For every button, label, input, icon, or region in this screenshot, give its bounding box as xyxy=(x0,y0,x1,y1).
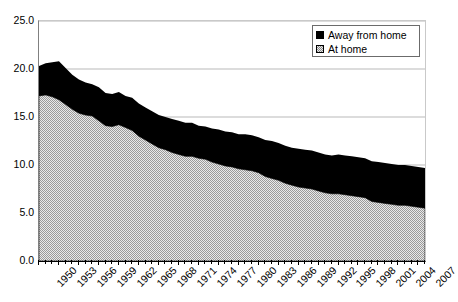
x-tick-label: 1998 xyxy=(373,264,398,289)
y-tick-label: 15.0 xyxy=(0,111,34,121)
legend-item-away-from-home: Away from home xyxy=(316,28,416,42)
x-tick-label: 1977 xyxy=(234,264,259,289)
x-tick-label: 1995 xyxy=(353,264,378,289)
x-tick-label: 1959 xyxy=(114,264,139,289)
black-square-icon xyxy=(316,31,324,39)
y-tick-label: 25.0 xyxy=(0,15,34,25)
y-tick-label: 10.0 xyxy=(0,159,34,169)
y-axis-labels: 25.020.015.010.05.00.0 xyxy=(0,0,34,302)
chart-legend: Away from home At home xyxy=(312,25,420,57)
x-tick-label: 1965 xyxy=(154,264,179,289)
y-tick-label: 5.0 xyxy=(0,207,34,217)
x-tick-label: 1986 xyxy=(293,264,318,289)
legend-label-away-from-home: Away from home xyxy=(328,30,407,41)
x-tick-label: 1950 xyxy=(54,264,79,289)
dotted-square-icon xyxy=(316,45,324,53)
x-tick-label: 2001 xyxy=(393,264,418,289)
x-tick-label: 2007 xyxy=(433,264,458,289)
x-tick-label: 1956 xyxy=(94,264,119,289)
legend-label-at-home: At home xyxy=(328,44,367,55)
legend-item-at-home: At home xyxy=(316,42,416,56)
x-tick-label: 1971 xyxy=(194,264,219,289)
x-tick-label: 1953 xyxy=(74,264,99,289)
y-tick-label: 20.0 xyxy=(0,63,34,73)
x-tick-label: 1983 xyxy=(273,264,298,289)
x-tick-label: 1989 xyxy=(313,264,338,289)
area-series-svg xyxy=(39,21,425,261)
x-tick-label: 1968 xyxy=(174,264,199,289)
x-tick-label: 1992 xyxy=(333,264,358,289)
x-tick-label: 1962 xyxy=(134,264,159,289)
x-tick-label: 1980 xyxy=(253,264,278,289)
x-tick-label: 2004 xyxy=(413,264,438,289)
x-axis-labels: 1950195319561959196219651968197119741977… xyxy=(0,262,433,302)
x-tick-label: 1974 xyxy=(214,264,239,289)
